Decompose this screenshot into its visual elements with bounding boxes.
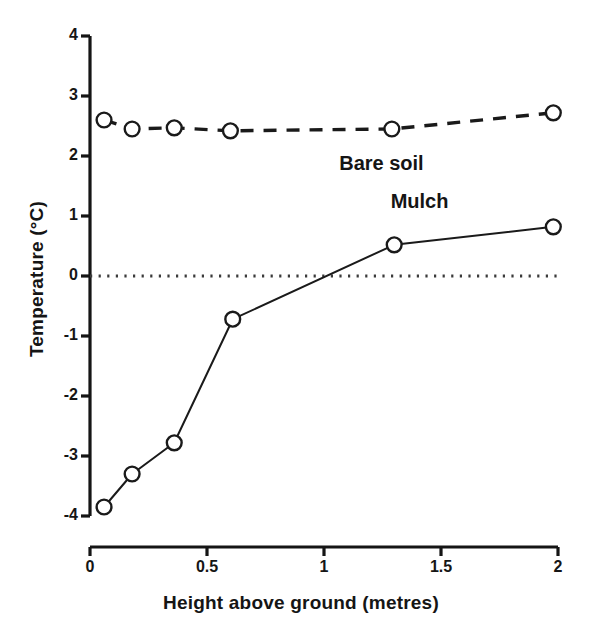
- x-tick-label: 0.5: [177, 558, 237, 576]
- y-tick-label: -3: [36, 446, 78, 464]
- chart-figure: 43210-1-2-3-4 00.511.52 Temperature (°C)…: [0, 0, 602, 625]
- data-point-marker: [546, 105, 561, 120]
- x-tick-label: 0: [60, 558, 120, 576]
- x-tick-label: 1: [294, 558, 354, 576]
- data-point-marker: [97, 500, 112, 515]
- mulch-label: Mulch: [391, 190, 449, 213]
- y-axis-title: Temperature (°C): [26, 154, 48, 404]
- series-mulch: [97, 219, 561, 514]
- series-line: [104, 227, 553, 507]
- bare-soil-label: Bare soil: [339, 152, 423, 175]
- axes-group: [81, 36, 558, 556]
- data-point-marker: [384, 122, 399, 137]
- data-point-marker: [387, 237, 402, 252]
- x-axis-title: Height above ground (metres): [0, 592, 602, 614]
- y-tick-label: -4: [36, 506, 78, 524]
- x-tick-label: 2: [528, 558, 588, 576]
- y-tick-label: 3: [36, 86, 78, 104]
- data-point-marker: [97, 113, 112, 128]
- data-point-marker: [167, 120, 182, 135]
- data-series-group: [97, 105, 561, 514]
- x-tick-label: 1.5: [411, 558, 471, 576]
- data-point-marker: [167, 435, 182, 450]
- data-point-marker: [223, 123, 238, 138]
- data-point-marker: [125, 467, 140, 482]
- series-bare-soil: [97, 105, 561, 138]
- chart-canvas: [0, 0, 602, 625]
- data-point-marker: [225, 312, 240, 327]
- data-point-marker: [125, 122, 140, 137]
- y-tick-label: 4: [36, 26, 78, 44]
- data-point-marker: [546, 219, 561, 234]
